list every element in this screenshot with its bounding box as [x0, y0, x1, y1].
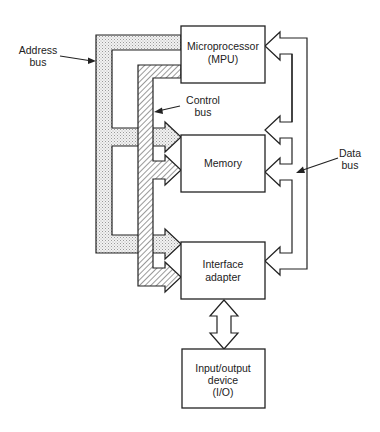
address-bus-label-line2: bus — [30, 56, 47, 68]
data-bus-label-line1: Data — [339, 147, 361, 159]
data-bus — [265, 32, 307, 275]
io-label-line2: device — [208, 374, 239, 386]
mpu-label-line2: (MPU) — [208, 53, 238, 65]
interface-label-line2: adapter — [205, 271, 241, 283]
address-bus-callout: Address bus — [19, 44, 96, 68]
data-bus-outer — [265, 32, 307, 275]
mpu-label-line1: Microprocessor — [187, 40, 259, 52]
control-bus-pointer-head — [154, 108, 163, 115]
io-double-arrow — [210, 300, 238, 349]
address-bus-pointer-head — [88, 58, 96, 65]
address-bus-label-line1: Address — [19, 44, 58, 56]
io-label-line3: (I/O) — [213, 386, 234, 398]
memory-label: Memory — [204, 157, 243, 169]
control-bus-label-line1: Control — [186, 94, 220, 106]
mpu-block: Microprocessor (MPU) — [181, 26, 265, 83]
io-label-line1: Input/output — [195, 362, 251, 374]
control-bus — [138, 65, 181, 292]
data-bus-label-line2: bus — [342, 159, 359, 171]
interface-label-line1: Interface — [203, 258, 244, 270]
microcomputer-block-diagram: Microprocessor (MPU) Memory Interface ad… — [0, 0, 380, 432]
control-bus-label-line2: bus — [195, 106, 212, 118]
io-device-block: Input/output device (I/O) — [182, 349, 265, 408]
control-bus-callout: Control bus — [154, 94, 220, 118]
interface-adapter-block: Interface adapter — [181, 242, 265, 299]
address-bus-pointer — [60, 56, 92, 61]
memory-block: Memory — [181, 135, 265, 192]
control-bus-shape — [138, 65, 181, 292]
